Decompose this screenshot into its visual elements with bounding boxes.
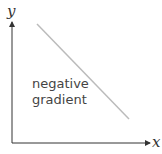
annotation-line-1: negative bbox=[32, 76, 89, 91]
y-axis-label: y bbox=[6, 2, 16, 20]
gradient-diagram: y x negative gradient bbox=[0, 0, 162, 154]
annotation-line-2: gradient bbox=[32, 92, 87, 107]
x-axis-label: x bbox=[152, 133, 161, 151]
